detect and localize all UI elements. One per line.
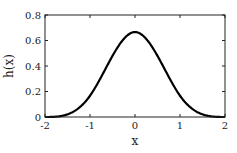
y-tick-label: 0.4 xyxy=(25,61,41,72)
y-tick-label: 0 xyxy=(35,112,41,123)
data-line xyxy=(45,32,225,117)
x-tick-label: 2 xyxy=(222,120,228,131)
y-axis-ticks: 00.20.40.60.8 xyxy=(25,10,225,123)
y-tick-label: 0.2 xyxy=(25,86,41,97)
x-tick-label: 1 xyxy=(177,120,183,131)
chart: -2-1012 00.20.40.60.8 x h(x) xyxy=(0,0,237,153)
plot-area xyxy=(45,32,225,117)
x-tick-label: -1 xyxy=(85,120,95,131)
x-tick-label: -2 xyxy=(40,120,50,131)
y-axis-label: h(x) xyxy=(2,54,16,78)
y-tick-label: 0.6 xyxy=(25,35,41,46)
x-tick-label: 0 xyxy=(132,120,138,131)
axes-frame xyxy=(45,15,225,117)
y-tick-label: 0.8 xyxy=(25,10,41,21)
x-axis-label: x xyxy=(132,134,139,148)
